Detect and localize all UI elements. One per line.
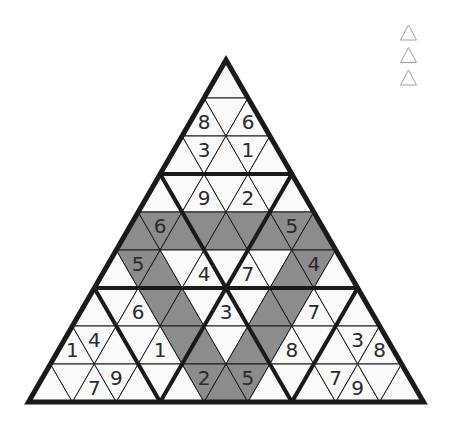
cell-digit: 3 [351, 328, 364, 352]
cell-digit: 2 [198, 366, 211, 390]
cell-digit: 5 [242, 366, 255, 390]
cell-digit: 3 [220, 300, 233, 324]
cell-digit: 4 [88, 328, 101, 352]
cell-digit: 1 [242, 138, 255, 162]
side-icons [401, 25, 417, 85]
puzzle-grid: 863192655474637141838792579 [29, 60, 424, 402]
cell-digit: 6 [154, 214, 167, 238]
cell-digit: 9 [110, 366, 123, 390]
cell-digit: 1 [66, 338, 79, 362]
puzzle-board: 863192655474637141838792579 [0, 0, 453, 429]
cell-digit: 7 [88, 376, 101, 400]
cell-digit: 7 [307, 300, 320, 324]
cell-digit: 9 [198, 186, 211, 210]
cell-digit: 8 [286, 338, 299, 362]
cell-digit: 6 [132, 300, 145, 324]
cell-digit: 3 [198, 138, 211, 162]
cell-digit: 7 [242, 262, 255, 286]
cell-digit: 4 [307, 252, 320, 276]
cell-digit: 4 [198, 262, 211, 286]
cell-digit: 8 [198, 110, 211, 134]
cell-digit: 8 [373, 338, 386, 362]
puzzle-cell-r0-c0[interactable] [204, 60, 248, 98]
triangle-outline-icon-1[interactable] [401, 25, 417, 40]
cell-digit: 9 [351, 376, 364, 400]
cell-digit: 1 [154, 338, 167, 362]
cell-digit: 6 [242, 110, 255, 134]
triangle-outline-icon-3[interactable] [401, 70, 417, 85]
triangle-outline-icon-2[interactable] [401, 48, 417, 63]
cell-digit: 2 [242, 186, 255, 210]
cell-digit: 5 [132, 252, 145, 276]
cell-digit: 5 [285, 214, 298, 238]
cell-digit: 7 [329, 366, 342, 390]
